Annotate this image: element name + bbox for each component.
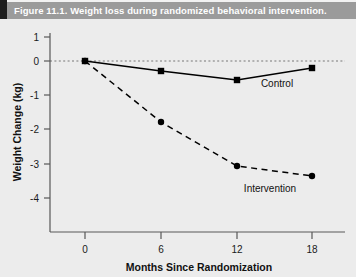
chart-background xyxy=(0,19,356,277)
y-tick-label-1: 1 xyxy=(33,32,39,43)
figure-caption-bar: Figure 11.1. Weight loss during randomiz… xyxy=(7,2,356,19)
series-label-control: Control xyxy=(261,78,293,89)
y-tick-label-m3: -3 xyxy=(30,159,39,170)
y-tick-label-m4: -4 xyxy=(30,193,39,204)
figure-container: Figure 11.1. Weight loss during randomiz… xyxy=(0,0,356,277)
x-tick-label-12: 12 xyxy=(231,244,243,255)
x-axis-title: Months Since Randomization xyxy=(126,261,272,273)
chart-plot-frame: 1 0 -1 -2 -3 -4 0 6 12 18 Months Since R… xyxy=(0,19,356,277)
x-tick-label-0: 0 xyxy=(82,244,88,255)
y-tick-label-m2: -2 xyxy=(30,124,39,135)
series-label-intervention: Intervention xyxy=(244,183,296,194)
y-axis-title: Weight Change (kg) xyxy=(11,83,23,181)
figure-caption-text: Figure 11.1. Weight loss during randomiz… xyxy=(7,5,327,16)
y-tick-label-0: 0 xyxy=(33,56,39,67)
x-tick-label-6: 6 xyxy=(158,244,164,255)
y-tick-label-m1: -1 xyxy=(30,90,39,101)
weight-change-line-chart: 1 0 -1 -2 -3 -4 0 6 12 18 Months Since R… xyxy=(0,19,356,277)
x-tick-label-18: 18 xyxy=(306,244,318,255)
